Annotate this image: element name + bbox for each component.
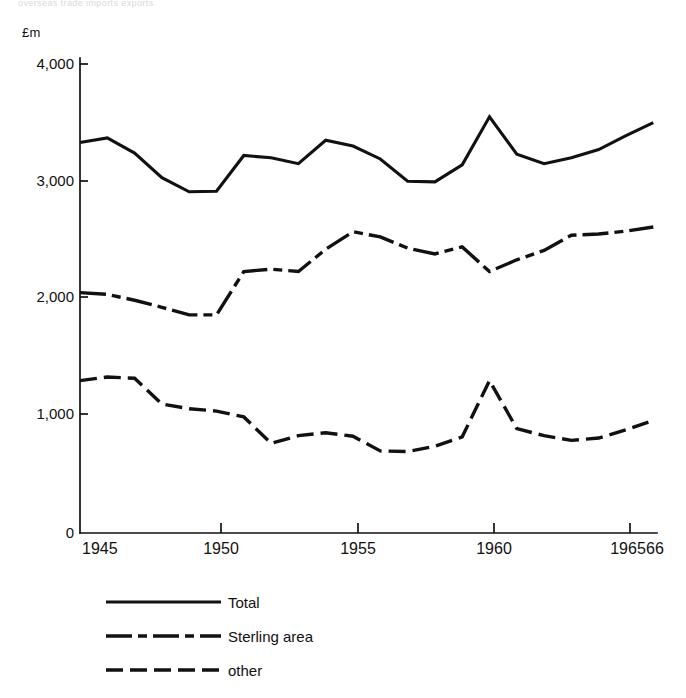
- legend: Total Sterling area other: [106, 594, 314, 679]
- line-chart-svg: 4,000 3,000 2,000 1,000 0 1945 1950 1955…: [0, 0, 686, 698]
- y-tick-label-4000: 4,000: [36, 55, 74, 72]
- legend-label-sterling-area: Sterling area: [228, 628, 314, 645]
- series-line-other: [80, 377, 653, 451]
- y-tick-label-0: 0: [66, 524, 74, 541]
- x-tick-label-1955: 1955: [340, 540, 376, 557]
- x-tick-label-1965: 1965: [610, 540, 646, 557]
- legend-label-other: other: [228, 662, 262, 679]
- x-tick-label-1945: 1945: [82, 540, 118, 557]
- x-tick-labels: 1945 1950 1955 1960 1965 66: [82, 540, 664, 557]
- y-tick-group: [80, 64, 88, 414]
- series-line-sterling-area: [80, 227, 653, 315]
- x-tick-group: [221, 523, 630, 533]
- series-group: [80, 117, 653, 452]
- x-tick-label-1960: 1960: [476, 540, 512, 557]
- legend-label-total: Total: [228, 594, 260, 611]
- x-tick-label-1950: 1950: [203, 540, 239, 557]
- series-line-total: [80, 117, 653, 192]
- x-tick-label-66: 66: [646, 540, 664, 557]
- y-tick-labels: 4,000 3,000 2,000 1,000 0: [36, 55, 74, 541]
- y-tick-label-1000: 1,000: [36, 405, 74, 422]
- axes-group: [80, 58, 657, 533]
- y-tick-label-2000: 2,000: [36, 288, 74, 305]
- y-tick-label-3000: 3,000: [36, 172, 74, 189]
- chart-figure: overseas trade imports exports £m 4,000 …: [0, 0, 686, 698]
